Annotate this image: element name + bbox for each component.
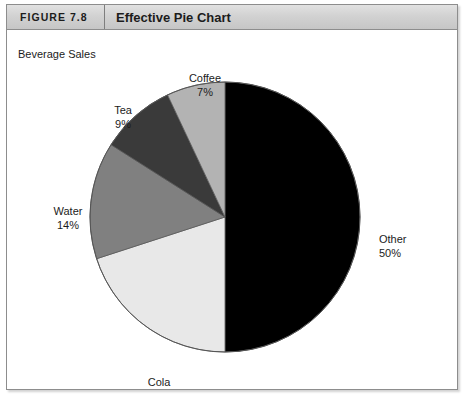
pie-label-cola-percent: 20%	[129, 389, 189, 390]
pie-label-coffee-name: Coffee	[189, 72, 221, 84]
figure-header: FIGURE 7.8 Effective Pie Chart	[7, 5, 457, 30]
figure-box: FIGURE 7.8 Effective Pie Chart Beverage …	[6, 4, 458, 390]
pie-label-water-percent: 14%	[36, 218, 100, 232]
pie-label-water-name: Water	[54, 205, 83, 217]
pie-label-tea-percent: 9%	[93, 117, 153, 131]
figure-body: Beverage Sales Coffee 7% Tea 9% Water 14…	[7, 30, 457, 389]
pie-label-tea: Tea 9%	[93, 103, 153, 131]
figure-title: Effective Pie Chart	[105, 10, 231, 25]
pie-label-tea-name: Tea	[114, 104, 132, 116]
chart-title: Beverage Sales	[18, 48, 96, 60]
figure-number-label: FIGURE 7.8	[7, 11, 104, 23]
pie-label-water: Water 14%	[36, 204, 100, 232]
pie-label-coffee-percent: 7%	[175, 85, 235, 99]
pie-label-cola-name: Cola	[148, 376, 171, 388]
pie-label-other-name: Other	[379, 233, 407, 245]
pie-slice-other	[225, 82, 360, 352]
pie-label-cola: Cola 20%	[129, 375, 189, 390]
pie-label-other-percent: 50%	[379, 246, 439, 260]
pie-label-other: Other 50%	[379, 232, 439, 260]
pie-label-coffee: Coffee 7%	[175, 71, 235, 99]
